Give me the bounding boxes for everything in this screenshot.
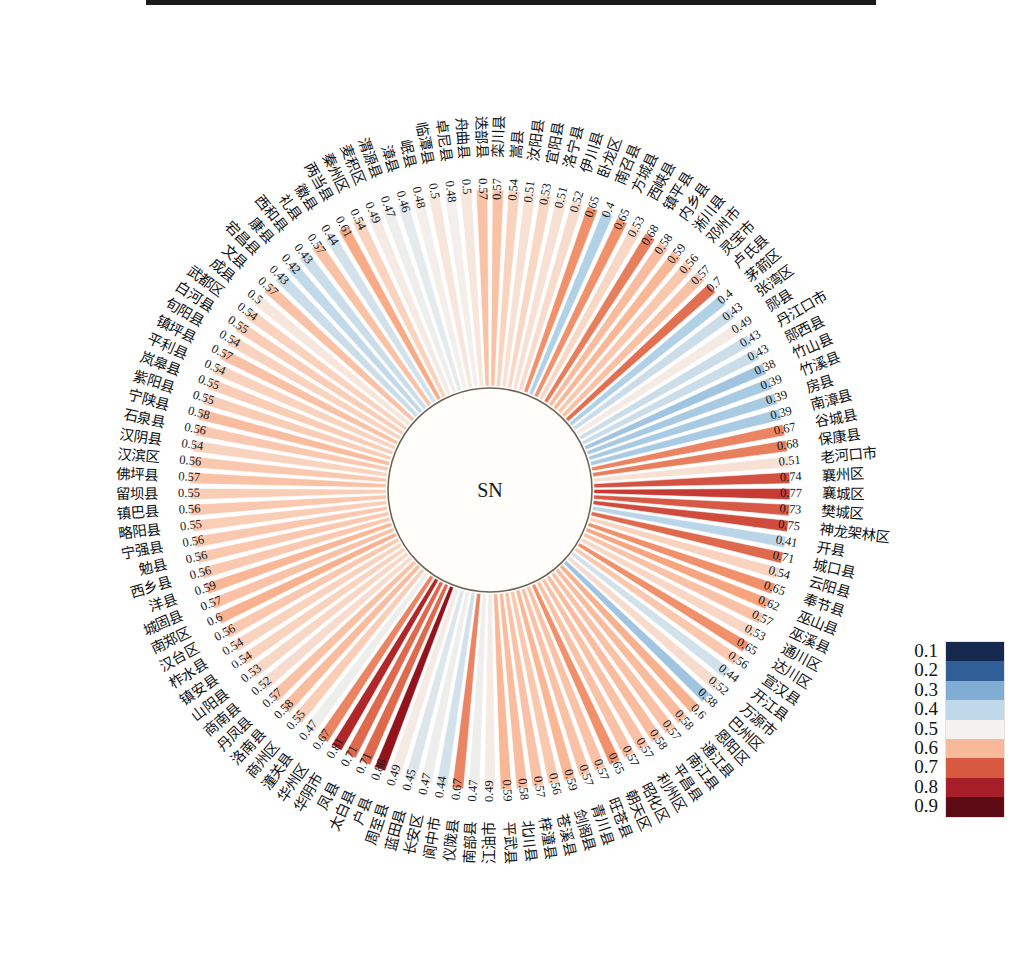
bar-value-label: 0.53	[536, 182, 554, 206]
bar-value-label: 0.5	[459, 178, 474, 195]
legend-label: 0.4	[898, 699, 945, 718]
legend: 0.10.20.30.40.50.60.70.80.9	[898, 641, 1008, 836]
legend-swatch	[945, 758, 1005, 777]
bar-value-label: 0.49	[482, 780, 496, 802]
category-label: 汉滨区	[117, 446, 160, 466]
legend-label: 0.1	[898, 641, 945, 660]
bar-value-label: 0.74	[780, 469, 803, 484]
category-label: 保康县	[817, 426, 861, 448]
bar-value-label: 0.56	[181, 532, 205, 550]
bar-value-label: 0.56	[546, 772, 564, 796]
legend-swatch	[945, 661, 1005, 680]
bar-value-label: 0.57	[531, 775, 548, 799]
bar-value-label: 0.54	[505, 178, 521, 202]
bar-value-label: 0.48	[442, 180, 459, 204]
bar-value-label: 0.5	[426, 182, 443, 200]
bar-value-label: 0.56	[179, 453, 202, 469]
category-label: 樊城区	[821, 503, 864, 522]
center-label: SN	[477, 479, 503, 501]
category-label: 镇巴县	[116, 503, 159, 522]
bar-value-label: 0.57	[178, 469, 200, 484]
legend-swatch	[945, 681, 1005, 700]
category-label: 平武县	[501, 821, 519, 864]
bar-value-label: 0.59	[500, 779, 515, 802]
bar-value-label: 0.75	[777, 517, 800, 534]
legend-label: 0.9	[898, 796, 945, 815]
category-label: 留坝县	[116, 485, 158, 502]
category-label: 仪陇县	[441, 819, 461, 862]
bar-value-label: 0.51	[778, 453, 801, 469]
legend-label: 0.8	[898, 777, 945, 796]
category-label: 略阳县	[118, 521, 162, 542]
category-label: 江油市	[481, 822, 497, 864]
bar-value-label: 0.58	[515, 778, 531, 801]
legend-label: 0.5	[898, 719, 945, 738]
category-label: 南部县	[461, 821, 479, 864]
legend-swatch	[945, 642, 1005, 661]
bar-value-label: 0.56	[183, 420, 207, 438]
legend-label: 0.2	[898, 660, 945, 679]
bar-value-label: 0.47	[465, 779, 480, 802]
category-label: 北川县	[519, 819, 539, 862]
legend-label: 0.6	[898, 738, 945, 757]
category-label: 襄城区	[822, 485, 864, 502]
bar-value-label: 0.67	[448, 778, 464, 801]
bar-value-label: 0.55	[178, 486, 200, 500]
category-label: 嵩县	[508, 130, 526, 159]
legend-swatch	[945, 778, 1005, 797]
bar-value-label: 0.56	[178, 501, 201, 516]
category-label: 栾川县	[490, 116, 507, 158]
radial-bar[interactable]	[484, 594, 495, 790]
bar-value-label: 0.73	[779, 501, 802, 516]
category-label: 老河口市	[820, 445, 877, 466]
legend-label: 0.3	[898, 680, 945, 699]
category-label: 舟曲县	[453, 116, 472, 159]
legend-swatches	[945, 641, 1005, 818]
radial-chart-svg: 0.570.540.510.530.510.520.650.40.650.530…	[0, 0, 1023, 954]
bar-value-label: 0.68	[776, 436, 800, 453]
legend-label: 0.7	[898, 757, 945, 776]
legend-swatch	[945, 739, 1005, 758]
legend-swatch	[945, 720, 1005, 739]
category-label: 襄州区	[821, 466, 864, 484]
category-label: 开县	[816, 539, 846, 560]
bar-value-label: 0.47	[416, 772, 434, 796]
legend-labels: 0.10.20.30.40.50.60.70.80.9	[898, 641, 945, 816]
radial-bar-chart: 0.570.540.510.530.510.520.650.40.650.530…	[0, 0, 1023, 954]
category-label: 汉阴县	[119, 426, 163, 448]
legend-swatch	[945, 797, 1005, 816]
category-label: 迭部县	[473, 116, 490, 158]
bar-value-label: 0.44	[432, 774, 449, 799]
bar-value-label: 0.41	[775, 532, 799, 550]
bar-value-label: 0.55	[179, 517, 202, 534]
bar-value-label: 0.67	[773, 420, 797, 438]
category-label: 佛坪县	[116, 466, 159, 484]
bar-value-label: 0.54	[181, 436, 205, 453]
legend-swatch	[945, 700, 1005, 719]
bar-value-label: 0.51	[521, 180, 538, 204]
bar-value-label: 0.57	[490, 178, 505, 200]
bar-value-label: 0.77	[780, 486, 802, 500]
bar-value-label: 0.57	[476, 178, 491, 200]
